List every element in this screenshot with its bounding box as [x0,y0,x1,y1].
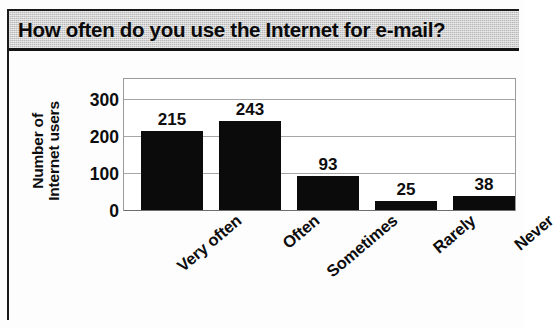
bar-value-very-often: 215 [141,111,203,128]
plot-area: 215 243 93 25 38 [123,78,516,211]
bar-never [453,196,515,210]
y-tick-200: 200 [77,129,119,147]
bar-rarely [375,201,437,210]
chart-title-banner: How often do you use the Internet for e-… [9,11,519,51]
chart-plot-region: Number of Internet users 300 200 100 0 2… [9,56,519,322]
bar-value-often: 243 [219,101,281,118]
bar-value-rarely: 25 [375,181,437,198]
x-axis-labels: Very often Often Sometimes Rarely Never [123,211,514,321]
y-tick-300: 300 [77,92,119,110]
y-tick-0: 0 [77,203,119,221]
page-title: How often do you use the Internet for e-… [18,18,445,42]
bar-value-never: 38 [453,176,515,193]
y-tick-100: 100 [77,166,119,184]
bar-very-often [141,131,203,210]
bar-often [219,121,281,210]
y-axis-title: Number of Internet users [29,76,63,226]
y-axis-title-line1: Number of [30,113,46,189]
bar-series: 215 243 93 25 38 [124,79,515,210]
bar-sometimes [297,176,359,210]
y-axis-title-line2: Internet users [46,101,62,201]
y-axis-ticks: 300 200 100 0 [71,56,119,322]
bar-value-sometimes: 93 [297,156,359,173]
